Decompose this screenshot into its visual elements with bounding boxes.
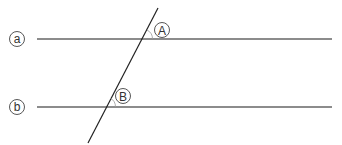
parallel-lines-diagram: a b A B [0,0,342,145]
angle-label-b-text: B [119,90,127,104]
angle-arc-a [147,30,153,39]
angle-label-b: B [116,89,131,104]
angle-label-a-text: A [158,24,166,38]
angle-label-a: A [155,23,170,38]
line-label-a: a [10,32,25,47]
line-label-a-text: a [14,32,21,46]
transversal-line [88,8,158,143]
line-label-b: b [10,100,25,115]
line-label-b-text: b [14,100,21,114]
